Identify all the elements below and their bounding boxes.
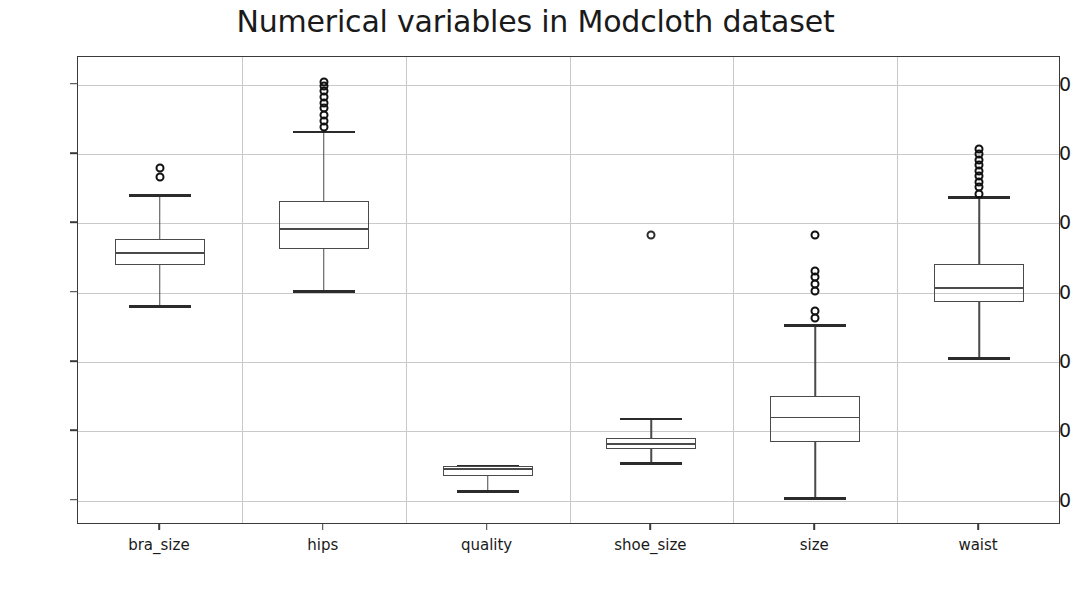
x-tick-mark: [813, 524, 815, 530]
x-tick-label-size: size: [800, 536, 829, 554]
x-tick-label-shoe_size: shoe_size: [614, 536, 686, 554]
outlier-point: [975, 145, 984, 154]
y-tick-mark: [70, 152, 77, 154]
whisker-lower: [978, 302, 980, 359]
plot-area: [77, 56, 1060, 524]
whisker-upper: [978, 198, 980, 264]
median-line: [934, 287, 1024, 289]
x-tick-label-hips: hips: [307, 536, 338, 554]
figure-canvas: Numerical variables in Modcloth dataset …: [0, 0, 1071, 604]
y-tick-mark: [70, 430, 77, 432]
y-tick-mark: [70, 360, 77, 362]
x-tick-mark: [322, 524, 324, 530]
chart-title: Numerical variables in Modcloth dataset: [0, 4, 1071, 39]
x-tick-mark: [650, 524, 652, 530]
boxplot-waist: [78, 57, 1059, 523]
whisker-cap-lower: [948, 357, 1010, 360]
box-iqr: [934, 264, 1024, 302]
y-tick-mark: [70, 291, 77, 293]
x-tick-label-bra_size: bra_size: [128, 536, 189, 554]
x-tick-mark: [977, 524, 979, 530]
y-tick-mark: [70, 83, 77, 85]
x-tick-mark: [486, 524, 488, 530]
y-tick-mark: [70, 499, 77, 501]
x-tick-label-waist: waist: [958, 536, 997, 554]
x-tick-mark: [158, 524, 160, 530]
y-tick-mark: [70, 222, 77, 224]
x-tick-label-quality: quality: [461, 536, 512, 554]
